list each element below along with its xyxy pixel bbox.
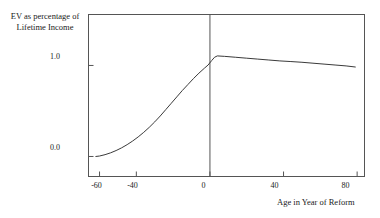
axis-ticks <box>89 65 358 176</box>
plot-area <box>0 0 380 218</box>
ev-curve <box>96 56 355 157</box>
chart-figure: EV as percentage ofLifetime Income Age i… <box>0 0 380 218</box>
plot-frame <box>89 15 365 177</box>
